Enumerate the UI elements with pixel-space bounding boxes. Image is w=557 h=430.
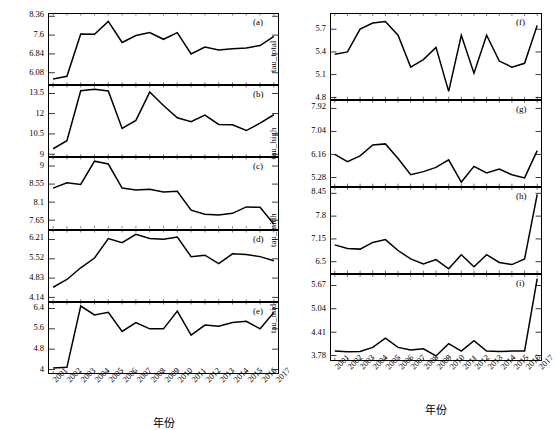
y-tick-label: 4 [2, 365, 44, 374]
y-tick-label: 12 [2, 109, 44, 118]
plot-area-e [48, 302, 279, 374]
plot-area-d [48, 230, 279, 302]
panel-label-a: (a) [253, 18, 263, 27]
plot-area-a [48, 13, 279, 85]
y-tick-label: 6.5 [284, 257, 326, 266]
y-tick-label: 5.7 [284, 24, 326, 33]
y-tick-label: 6.21 [2, 233, 44, 242]
plot-area-i [330, 274, 542, 361]
y-tick-label: 6.4 [2, 303, 44, 312]
series-line-i [331, 275, 541, 360]
y-tick-label: 5.67 [284, 280, 326, 289]
y-tick-label: 9 [2, 150, 44, 159]
plot-area-h [330, 187, 542, 274]
y-tick-label: 7.8 [284, 211, 326, 220]
series-line-c [49, 158, 278, 228]
x-axis-title: 年份 [48, 414, 279, 430]
y-tick-label: 6.08 [2, 68, 44, 77]
y-tick-label: 7.04 [284, 126, 326, 135]
y-tick-label: 7.15 [284, 234, 326, 243]
y-tick-label: 4.83 [2, 273, 44, 282]
y-tick-label: 5.4 [284, 47, 326, 56]
panel-label-i: (i) [516, 279, 525, 288]
y-tick-label: 5.28 [284, 173, 326, 182]
panel-label-e: (e) [253, 307, 263, 316]
panel-label-c: (c) [253, 162, 263, 171]
y-tick-label: 4.41 [284, 328, 326, 337]
panel-label-g: (g) [516, 105, 527, 114]
y-tick-label: 5.6 [2, 323, 44, 332]
series-line-d [49, 231, 278, 301]
y-axis-title: tau_total [268, 19, 278, 94]
y-tick-label: 3.78 [284, 351, 326, 360]
plot-area-c [48, 157, 279, 229]
y-tick-label: 5.52 [2, 253, 44, 262]
series-line-e [49, 303, 278, 373]
y-tick-label: 4.14 [2, 293, 44, 302]
series-line-g [331, 101, 541, 186]
plot-area-f [330, 13, 542, 100]
y-tick-label: 7.6 [2, 30, 44, 39]
y-tick-label: 7.92 [284, 102, 326, 111]
y-tick-label: 6.84 [2, 49, 44, 58]
y-tick-label: 9 [2, 161, 44, 170]
y-tick-label: 8.45 [284, 187, 326, 196]
y-axis-title: tau_high [268, 106, 278, 181]
panel-label-b: (b) [253, 90, 264, 99]
series-line-b [49, 86, 278, 156]
series-line-f [331, 14, 541, 99]
y-axis-title: tau_midh [268, 193, 278, 268]
y-tick-label: 7.65 [2, 216, 44, 225]
plot-area-g [330, 100, 542, 187]
plot-area-b [48, 85, 279, 157]
y-tick-label: 5.04 [284, 304, 326, 313]
x-axis-title: 年份 [330, 401, 542, 417]
y-tick-label: 5.1 [284, 70, 326, 79]
y-tick-label: 8.55 [2, 179, 44, 188]
panel-label-d: (d) [253, 235, 264, 244]
y-tick-label: 8.36 [2, 10, 44, 19]
series-line-a [49, 14, 278, 84]
panel-label-f: (f) [516, 18, 525, 27]
y-tick-label: 13.5 [2, 88, 44, 97]
y-tick-label: 4.8 [2, 344, 44, 353]
y-tick-label: 10.5 [2, 129, 44, 138]
panel-label-h: (h) [516, 192, 527, 201]
y-tick-label: 6.16 [284, 150, 326, 159]
y-axis-title: tau_midl [268, 280, 278, 355]
y-tick-label: 8.1 [2, 198, 44, 207]
series-line-h [331, 188, 541, 273]
